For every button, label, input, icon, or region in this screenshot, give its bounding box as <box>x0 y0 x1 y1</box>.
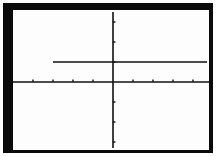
calculator-screen-frame <box>3 3 213 153</box>
axes <box>13 12 209 148</box>
graph-svg <box>13 10 209 150</box>
graph-area <box>13 10 209 150</box>
